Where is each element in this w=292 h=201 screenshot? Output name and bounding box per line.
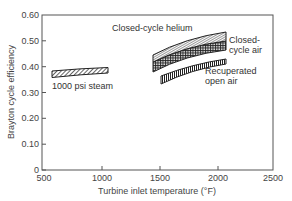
y-axis <box>42 41 46 170</box>
annotation-open-air-1: Recuperated <box>205 66 257 76</box>
y-tick-label: 0.20 <box>21 113 39 123</box>
y-tick-labels: 0 0.10 0.20 0.30 0.40 0.50 0.60 <box>21 10 39 175</box>
y-tick-label: 0.30 <box>21 88 39 98</box>
y-tick-label: 0.50 <box>21 36 39 46</box>
annotation-helium: Closed-cycle helium <box>112 23 193 33</box>
y-tick-label: 0.60 <box>21 10 39 20</box>
annotation-closed-cycle-air-1: Closed- <box>229 35 260 45</box>
annotation-steam: 1000 psi steam <box>52 81 113 91</box>
x-tick-labels: 500 1000 1500 2000 2500 <box>36 173 283 183</box>
x-tick-label: 1500 <box>150 173 170 183</box>
y-tick-label: 0.40 <box>21 62 39 72</box>
y-axis-label: Brayton cycle efficiency <box>6 45 16 139</box>
x-tick-label: 2500 <box>263 173 283 183</box>
y-tick-label: 0.10 <box>21 139 39 149</box>
x-tick-label: 1000 <box>92 173 112 183</box>
x-tick-label: 500 <box>36 173 51 183</box>
annotation-closed-cycle-air-2: cycle air <box>229 45 262 55</box>
x-tick-label: 2000 <box>208 173 228 183</box>
x-axis-label: Turbine inlet temperature (°F) <box>98 186 216 196</box>
chart: 0 0.10 0.20 0.30 0.40 0.50 0.60 500 1000… <box>0 0 292 201</box>
series-steam-band <box>52 68 108 78</box>
x-axis <box>102 166 218 170</box>
annotation-open-air-2: open air <box>205 76 238 86</box>
